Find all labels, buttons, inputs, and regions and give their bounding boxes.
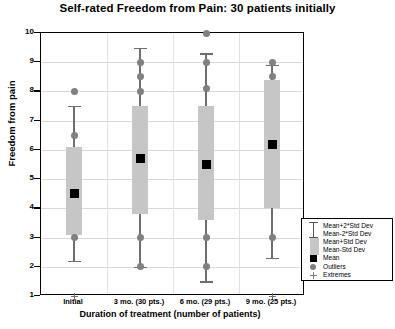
y-tick-mark (34, 295, 40, 296)
mean-marker (268, 140, 277, 149)
mean-marker (70, 189, 79, 198)
outlier-point (269, 59, 276, 66)
x-tick-label: 9 mo. (25 pts.) (246, 297, 296, 306)
whisker-cap-upper (68, 106, 81, 107)
gridline-vertical (107, 33, 108, 294)
whisker-cap-lower (200, 281, 213, 282)
gridline-vertical (173, 33, 174, 294)
graybox2-icon (305, 246, 323, 254)
legend: Mean+2*Std DevMean-2*Std DevMean+Std Dev… (301, 218, 393, 281)
mean-marker (202, 160, 211, 169)
cross-icon (305, 271, 323, 279)
gridline-horizontal (41, 238, 303, 239)
gridline-vertical (239, 33, 240, 294)
circle-icon (305, 263, 323, 271)
y-tick-label: 4 (8, 203, 34, 211)
legend-item-label: Mean-Std Dev (323, 246, 365, 254)
y-tick-label: 3 (8, 233, 34, 241)
outlier-point (269, 234, 276, 241)
outlier-point (137, 73, 144, 80)
x-tick-label: 6 mo. (29 pts.) (180, 297, 230, 306)
ibar-icon (305, 222, 323, 230)
legend-item: Mean+2*Std Dev (305, 222, 390, 230)
outlier-point (71, 234, 78, 241)
legend-item: Mean-Std Dev (305, 246, 390, 254)
outlier-point (203, 30, 210, 37)
outlier-point (71, 88, 78, 95)
y-tick-label: 6 (8, 145, 34, 153)
legend-item-label: Outliers (323, 263, 346, 271)
whisker-cap-upper (200, 53, 213, 54)
legend-item: Outliers (305, 262, 390, 270)
legend-item-label: Mean-2*Std Dev (323, 230, 371, 238)
outlier-point (203, 234, 210, 241)
y-tick-label: 5 (8, 174, 34, 182)
gridline-horizontal (41, 267, 303, 268)
y-tick-label: 7 (8, 116, 34, 124)
legend-item-label: Mean+Std Dev (323, 238, 367, 246)
outlier-point (137, 263, 144, 270)
plot-area (40, 32, 304, 295)
blackbox-icon (305, 254, 323, 262)
legend-item-label: Mean (323, 254, 340, 262)
gridline-horizontal (41, 62, 303, 63)
y-tick-label: 10 (8, 28, 34, 36)
whisker-cap-upper (134, 48, 147, 49)
legend-item: Mean (305, 254, 390, 262)
x-tick-label: Initial (63, 297, 83, 306)
x-axis-label: Duration of treatment (number of patient… (0, 309, 340, 319)
outlier-point (203, 263, 210, 270)
outlier-point (137, 234, 144, 241)
whisker-cap-lower (68, 261, 81, 262)
y-tick-label: 8 (8, 86, 34, 94)
outlier-point (269, 73, 276, 80)
outlier-point (71, 132, 78, 139)
outlier-point (203, 59, 210, 66)
y-tick-label: 2 (8, 262, 34, 270)
outlier-point (137, 88, 144, 95)
y-tick-label: 1 (8, 291, 34, 299)
y-tick-label: 9 (8, 57, 34, 65)
outlier-point (137, 59, 144, 66)
legend-item: Extremes (305, 271, 390, 279)
legend-item-label: Extremes (323, 271, 351, 279)
page-title: Self-rated Freedom from Pain: 30 patient… (0, 2, 395, 14)
chart-root: Self-rated Freedom from Pain: 30 patient… (0, 0, 395, 329)
whisker-cap-lower (266, 258, 279, 259)
x-tick-label: 3 mo. (30 pts.) (114, 297, 164, 306)
legend-item-label: Mean+2*Std Dev (323, 222, 373, 230)
mean-marker (136, 154, 145, 163)
outlier-point (203, 85, 210, 92)
